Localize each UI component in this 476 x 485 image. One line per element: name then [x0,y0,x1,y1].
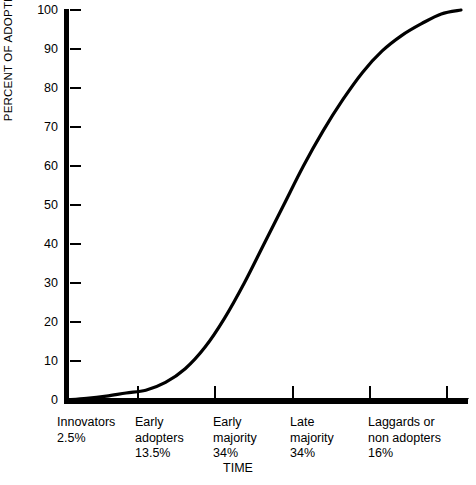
x-tick-mark-5 [446,386,448,399]
y-tick-mark-100 [70,9,81,11]
y-tick-label-0: 0 [22,394,58,406]
adoption-curve-line [67,10,461,400]
y-tick-mark-90 [70,48,81,50]
segment-label-late-majority: Late majority 34% [290,415,334,462]
y-tick-label-90: 90 [22,43,58,55]
y-axis-title: PERCENT OF ADOPTION [0,0,16,131]
x-tick-mark-2 [214,386,216,399]
x-tick-mark-4 [369,386,371,399]
y-tick-label-60: 60 [22,160,58,172]
y-tick-label-70: 70 [22,121,58,133]
y-tick-mark-30 [70,282,81,284]
y-tick-mark-70 [70,126,81,128]
segment-label-early-adopters: Early adopters 13.5% [135,415,184,462]
y-tick-label-80: 80 [22,82,58,94]
y-tick-label-40: 40 [22,238,58,250]
y-tick-label-20: 20 [22,316,58,328]
x-axis-title: TIME [196,461,280,475]
y-axis-line [64,9,69,402]
y-tick-label-50: 50 [22,199,58,211]
y-tick-label-30: 30 [22,277,58,289]
x-tick-mark-1 [137,386,139,399]
segment-label-laggards: Laggards or non adopters 16% [368,415,441,462]
y-tick-label-10: 10 [22,355,58,367]
x-tick-mark-3 [292,386,294,399]
x-axis-line [64,398,468,404]
y-tick-mark-60 [70,165,81,167]
y-tick-mark-40 [70,243,81,245]
y-tick-label-100: 100 [22,4,58,16]
y-tick-mark-10 [70,360,81,362]
y-tick-mark-80 [70,87,81,89]
segment-label-innovators: Innovators 2.5% [57,415,115,446]
segment-label-early-majority: Early majority 34% [213,415,257,462]
adoption-curve-chart: PERCENT OF ADOPTION 100 90 80 70 60 50 4… [0,0,476,485]
y-tick-mark-50 [70,204,81,206]
y-tick-mark-20 [70,321,81,323]
